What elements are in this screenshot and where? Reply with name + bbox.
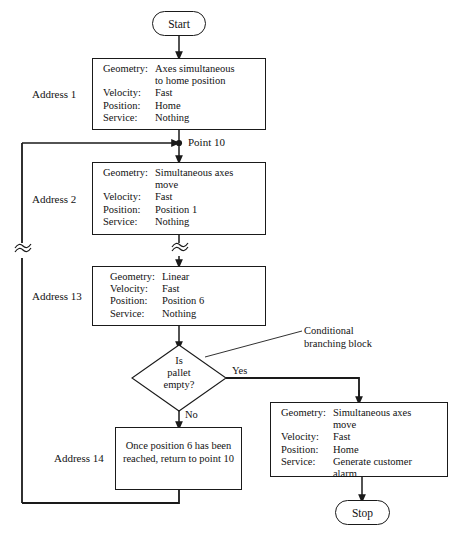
annotation-leader-line	[205, 331, 302, 357]
address-label-13: Address 13	[32, 290, 82, 302]
spec-list-alarm: Geometry: Simultaneous axes move Velocit…	[281, 407, 443, 480]
spec-value: Fast	[155, 87, 261, 99]
spec-key: Velocity:	[103, 87, 148, 99]
spec-value: Nothing	[155, 216, 261, 228]
spec-value: Simultaneous axes move	[333, 407, 443, 431]
break-mark-main-b	[172, 243, 188, 247]
break-mark-left-b	[15, 244, 31, 248]
spec-value: Fast	[162, 283, 260, 295]
decision-text: Is pallet empty?	[132, 355, 226, 391]
terminal-stop[interactable]: Stop	[335, 500, 390, 525]
point10-junction-dot	[176, 140, 182, 146]
spec-key: Position:	[110, 295, 155, 307]
conditional-branching-annotation: Conditional branching block	[304, 325, 372, 350]
flowchart-figure: Start Address 1 Geometry: Axes simultane…	[0, 0, 455, 539]
spec-value: Axes simultaneous to home position	[155, 63, 261, 87]
spec-key: Position:	[281, 444, 326, 456]
spec-key: Position:	[103, 204, 148, 216]
address-label-14: Address 14	[54, 452, 104, 464]
spec-key: Service:	[110, 308, 155, 320]
spec-key: Velocity:	[281, 431, 326, 443]
address-label-1: Address 1	[32, 88, 76, 100]
break-mark-main-a	[172, 247, 188, 251]
spec-value: Nothing	[155, 112, 261, 124]
spec-value: Home	[155, 100, 261, 112]
spec-key: Service:	[281, 456, 326, 480]
terminal-stop-label: Stop	[352, 507, 373, 519]
process-block-address-14[interactable]: Once position 6 has been reached, return…	[115, 427, 242, 490]
spec-key: Velocity:	[110, 283, 155, 295]
spec-key: Geometry:	[103, 63, 148, 87]
spec-value: Nothing	[162, 308, 260, 320]
spec-key: Geometry:	[103, 167, 148, 191]
spec-value: Position 1	[155, 204, 261, 216]
spec-key: Position:	[103, 100, 148, 112]
spec-value: Generate customer alarm	[333, 456, 443, 480]
spec-value: Simultaneous axes move	[155, 167, 261, 191]
spec-key: Service:	[103, 216, 148, 228]
address-14-text: Once position 6 has been reached, return…	[116, 439, 241, 465]
spec-key: Geometry:	[110, 271, 155, 283]
no-branch-label: No	[185, 409, 198, 420]
wire-address14-return	[22, 490, 179, 503]
spec-list-address-1: Geometry: Axes simultaneous to home posi…	[103, 63, 261, 124]
spec-list-address-2: Geometry: Simultaneous axes move Velocit…	[103, 167, 261, 228]
spec-value: Home	[333, 444, 443, 456]
spec-value: Position 6	[162, 295, 260, 307]
spec-key: Geometry:	[281, 407, 326, 431]
decision-block[interactable]: Is pallet empty?	[132, 355, 226, 400]
terminal-start-label: Start	[168, 18, 190, 30]
point10-label: Point 10	[188, 136, 225, 148]
terminal-start[interactable]: Start	[152, 11, 206, 36]
wire-yes-branch	[226, 378, 359, 400]
break-mark-left-a	[15, 248, 31, 252]
spec-value: Fast	[333, 431, 443, 443]
spec-value: Fast	[155, 191, 261, 203]
spec-key: Velocity:	[103, 191, 148, 203]
spec-value: Linear	[162, 271, 260, 283]
yes-branch-label: Yes	[232, 365, 247, 376]
address-label-2: Address 2	[32, 193, 76, 205]
spec-list-address-13: Geometry: Linear Velocity: Fast Position…	[110, 271, 260, 320]
spec-key: Service:	[103, 112, 148, 124]
